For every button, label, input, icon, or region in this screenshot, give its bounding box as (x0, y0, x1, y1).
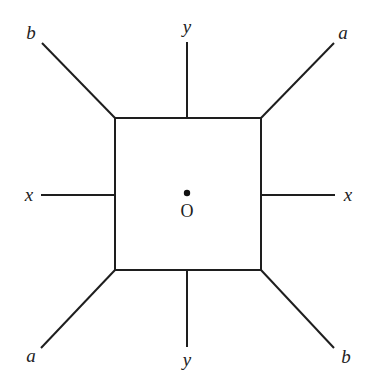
line-top-left-b (42, 43, 115, 118)
diagram-canvas: O b y a x x a y b (0, 0, 372, 389)
origin-label: O (181, 201, 194, 221)
label-bottom-left: a (26, 345, 36, 366)
label-top-left: b (26, 22, 36, 43)
label-left: x (24, 184, 34, 205)
line-bottom-left-a (41, 270, 115, 348)
diagram-svg: O b y a x x a y b (0, 0, 372, 389)
label-right: x (343, 184, 353, 205)
origin-point (184, 190, 190, 196)
label-bottom: y (181, 349, 192, 370)
label-top: y (181, 16, 192, 37)
line-top-right-a (261, 43, 334, 118)
label-bottom-right: b (341, 346, 351, 367)
line-bottom-right-b (261, 270, 334, 348)
label-top-right: a (338, 22, 348, 43)
